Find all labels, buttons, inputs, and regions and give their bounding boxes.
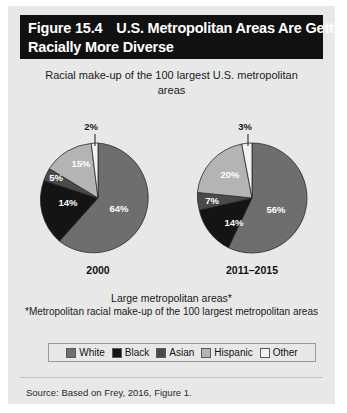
pie-chart-2011-2015: 56% 14% 7% 20% 3% [188,134,316,262]
figure-title-banner: Figure 15.4U.S. Metropolitan Areas Are G… [20,15,323,59]
pie-chart-2000: 64% 14% 5% 15% 2% [34,134,162,262]
chart-subtitle: Racial make-up of the 100 largest U.S. m… [32,68,311,98]
caption-footnote-text: *Metropolitan racial make-up of the 100 … [22,305,321,319]
pie-label-hispanic-2000: 15% [71,158,91,169]
legend-item-hispanic: Hispanic [201,347,252,358]
legend-label-asian: Asian [169,347,194,358]
legend-item-other: Other [260,347,298,358]
pie-year-label-2000: 2000 [34,264,162,276]
figure-title-line-1: Figure 15.4U.S. Metropolitan Areas Are G… [28,19,315,38]
chart-caption: Large metropolitan areas* *Metropolitan … [22,291,321,319]
pie-outside-label-other-2011: 3% [188,120,316,138]
chart-legend: White Black Asian Hispanic Other [48,343,316,362]
pie-label-white-2000: 64% [109,203,129,214]
pie-label-black-2000: 14% [58,197,78,208]
pie-outside-label-other-2000: 2% [34,120,162,138]
pie-label-asian-2011: 7% [205,195,219,206]
legend-swatch-white-icon [66,348,76,358]
legend-label-other: Other [273,347,298,358]
pie-label-black-2011: 14% [224,217,244,228]
legend-item-white: White [66,347,105,358]
legend-label-white: White [79,347,105,358]
legend-swatch-other-icon [260,348,270,358]
legend-swatch-black-icon [112,348,122,358]
pie-chart-2000-svg: 64% 14% 5% 15% [34,134,162,262]
legend-label-hispanic: Hispanic [214,347,252,358]
pie-chart-2011-2015-svg: 56% 14% 7% 20% [188,134,316,262]
pie-label-other-2000: 2% [84,121,98,132]
figure-title-text-line-1: U.S. Metropolitan Areas Are Getting [116,20,347,36]
pie-label-hispanic-2011: 20% [220,169,240,180]
caption-primary-text: Large metropolitan areas* [22,291,321,305]
legend-item-asian: Asian [156,347,194,358]
pie-year-label-2011-2015: 2011–2015 [188,264,316,276]
pie-label-asian-2000: 5% [49,172,63,183]
figure-title-line-2: Racially More Diverse [28,38,315,57]
legend-swatch-hispanic-icon [201,348,211,358]
legend-swatch-asian-icon [156,348,166,358]
legend-label-black: Black [125,347,149,358]
pie-label-white-2011: 56% [266,204,286,215]
figure-number-label: Figure 15.4 [28,19,102,38]
pie-label-other-2011: 3% [238,121,252,132]
source-text: Source: Based on Frey, 2016, Figure 1. [26,387,192,398]
legend-item-black: Black [112,347,149,358]
source-divider [20,377,323,378]
figure-frame: Figure 15.4U.S. Metropolitan Areas Are G… [8,6,335,404]
